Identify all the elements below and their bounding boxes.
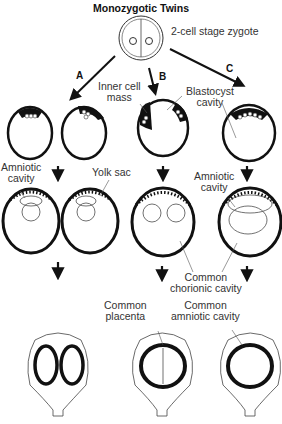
label-common-amniotic-cavity: Common amniotic cavity: [171, 300, 240, 322]
label-common-placenta: Common placenta: [104, 300, 147, 322]
label-yolk-sac: Yolk sac: [92, 167, 131, 178]
label-amniotic-cavity-left: Amniotic cavity: [1, 162, 41, 184]
label-zygote: 2-cell stage zygote: [171, 26, 259, 37]
blastocyst-c-icon: [223, 105, 275, 161]
label-common-chorionic-cavity: Common chorionic cavity: [170, 272, 242, 294]
diagram-graphics: [0, 0, 282, 424]
zygote-icon: [119, 16, 163, 60]
label-blastocyst-cavity: Blastocyst cavity: [186, 86, 234, 108]
blastocyst-a-right-icon: [62, 106, 106, 159]
uterus-a-icon: [28, 333, 88, 416]
label-path-c: C: [226, 63, 233, 74]
chorion-b-icon: [132, 188, 194, 256]
monozygotic-twins-diagram: Monozygotic Twins: [0, 0, 282, 424]
chorion-a-right-icon: [62, 189, 118, 253]
blastocyst-b-icon: [138, 100, 188, 156]
label-amniotic-cavity-right: Amniotic cavity: [194, 171, 234, 193]
label-inner-cell-mass: Inner cell mass: [98, 81, 141, 103]
uterus-c-icon: [220, 333, 280, 416]
label-path-b: B: [159, 71, 166, 82]
uterus-b-icon: [132, 333, 192, 416]
blastocyst-a-left-icon: [8, 107, 52, 159]
chorion-a-left-icon: [3, 189, 59, 253]
label-path-a: A: [76, 70, 83, 81]
